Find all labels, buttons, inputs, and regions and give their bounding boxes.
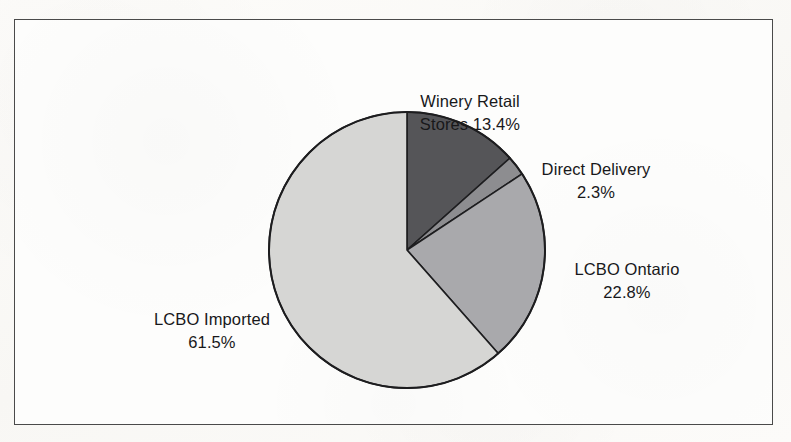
pie-label-lcbo-imported-line1: LCBO Imported [147, 308, 277, 331]
pie-chart-area: Winery Retail Stores 13.4% Direct Delive… [15, 20, 772, 424]
pie-label-direct-delivery-line2: 2.3% [526, 181, 666, 204]
chart-page: Winery Retail Stores 13.4% Direct Delive… [0, 0, 791, 442]
pie-chart-svg [15, 20, 772, 424]
chart-frame-border: Winery Retail Stores 13.4% Direct Delive… [14, 19, 773, 425]
pie-label-winery-retail-stores-line2: Stores 13.4% [402, 113, 538, 136]
pie-slice-group [269, 112, 545, 388]
pie-label-direct-delivery: Direct Delivery 2.3% [526, 158, 666, 204]
pie-label-winery-retail-stores-line1: Winery Retail [402, 90, 538, 113]
pie-label-winery-retail-stores: Winery Retail Stores 13.4% [402, 90, 538, 136]
pie-label-lcbo-ontario-line1: LCBO Ontario [559, 258, 695, 281]
pie-label-lcbo-ontario-line2: 22.8% [559, 281, 695, 304]
pie-label-lcbo-imported: LCBO Imported 61.5% [147, 308, 277, 354]
pie-label-direct-delivery-line1: Direct Delivery [526, 158, 666, 181]
pie-label-lcbo-ontario: LCBO Ontario 22.8% [559, 258, 695, 304]
pie-label-lcbo-imported-line2: 61.5% [147, 331, 277, 354]
